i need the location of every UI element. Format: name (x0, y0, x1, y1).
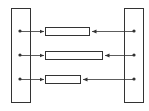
signal-box (46, 76, 81, 84)
left-port-dot (18, 53, 21, 56)
left-port-dot (18, 77, 21, 80)
connection-row-3 (18, 76, 135, 84)
connection-row-2 (18, 52, 135, 60)
left-port-dot (18, 29, 21, 32)
right-port-dot (132, 29, 135, 32)
signal-box (46, 52, 103, 60)
right-port-dot (132, 53, 135, 56)
connection-row-1 (18, 28, 135, 36)
connection-diagram (0, 0, 149, 111)
signal-box (46, 28, 90, 36)
right-port-dot (132, 77, 135, 80)
